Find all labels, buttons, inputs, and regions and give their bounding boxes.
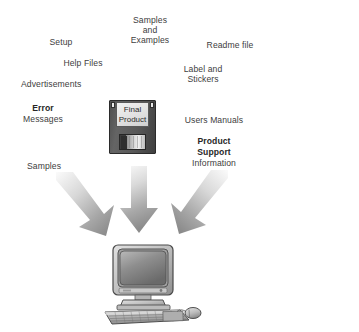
floppy-shutter-texture [129, 136, 144, 148]
label-advertisements: Advertisements [21, 79, 81, 89]
label-samples-and-examples: Samples and Examples [131, 15, 169, 46]
label-support: Support [197, 147, 231, 157]
label-setup: Setup [50, 37, 73, 47]
arrow-center-icon [118, 166, 160, 235]
label-readme-file: Readme file [207, 40, 254, 50]
label-label-and-stickers: Label and Stickers [184, 64, 223, 84]
label-error: Error [32, 103, 53, 113]
diagram-canvas: Setup Samples and Examples Readme file H… [0, 0, 359, 332]
arrow-right-icon [166, 170, 242, 236]
label-product: Product [197, 136, 230, 146]
floppy-shutter-slot [121, 136, 127, 149]
floppy-notch-right [150, 102, 154, 108]
floppy-label-line1: Final [124, 105, 141, 114]
floppy-notch-left [111, 102, 115, 108]
floppy-label-line2: Product [119, 115, 147, 124]
label-users-manuals: Users Manuals [185, 115, 243, 125]
desktop-computer-icon [97, 243, 205, 328]
label-samples: Samples [27, 161, 61, 171]
floppy-disk-icon: Final Product [109, 100, 156, 154]
label-help-files: Help Files [63, 58, 102, 68]
floppy-shutter [119, 134, 146, 150]
label-information: Information [192, 158, 236, 168]
arrow-left-icon [44, 172, 118, 238]
floppy-label: Final Product [116, 102, 149, 127]
label-messages: Messages [23, 114, 63, 124]
